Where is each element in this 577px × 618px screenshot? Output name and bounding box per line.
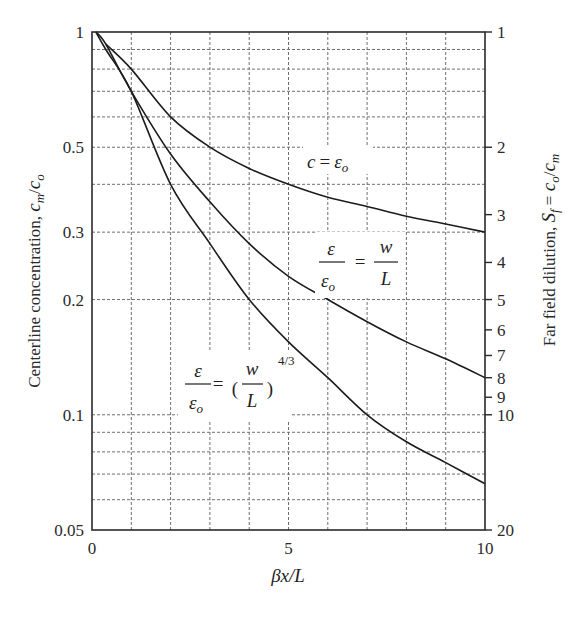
y2-tick-label: 9 bbox=[497, 388, 506, 407]
y2-tick-label: 10 bbox=[497, 406, 514, 425]
y-tick-label: 0.2 bbox=[63, 291, 84, 310]
svg-text:ε: ε bbox=[194, 360, 202, 381]
y-tick-label: 0.05 bbox=[54, 521, 84, 540]
axis-ticks: 051010.50.30.20.10.051234567891020 bbox=[54, 23, 514, 558]
x-tick-label: 5 bbox=[284, 539, 293, 558]
y2-axis-title: Far field dilution, Sf = co/cm bbox=[538, 154, 562, 346]
y2-tick-label: 6 bbox=[497, 321, 506, 340]
svg-text:L: L bbox=[380, 268, 392, 289]
y-tick-label: 0.5 bbox=[63, 138, 84, 157]
series-curve-1 bbox=[106, 44, 485, 232]
annotation-linear-ratio: ε εo = w L bbox=[315, 232, 405, 298]
grid-lines bbox=[92, 32, 485, 530]
data-curves bbox=[96, 32, 485, 484]
y2-tick-label: 20 bbox=[497, 521, 514, 540]
svg-text:w: w bbox=[246, 358, 259, 379]
y2-tick-label: 4 bbox=[497, 253, 506, 272]
y2-tick-label: 2 bbox=[497, 138, 506, 157]
svg-text:(: ( bbox=[232, 378, 238, 400]
series-curve-3 bbox=[96, 32, 485, 484]
y2-tick-label: 7 bbox=[497, 346, 506, 365]
svg-text:ε: ε bbox=[327, 238, 335, 259]
plot-frame bbox=[92, 32, 485, 530]
x-axis-title: βx/L bbox=[270, 565, 305, 586]
y-tick-label: 0.3 bbox=[63, 223, 84, 242]
svg-text:L: L bbox=[246, 390, 258, 411]
y2-tick-label: 5 bbox=[497, 291, 506, 310]
y-axis-title: Centerline concentration, cm/co bbox=[23, 174, 47, 388]
svg-text:=: = bbox=[213, 373, 224, 394]
x-tick-label: 10 bbox=[477, 539, 494, 558]
chart: 051010.50.30.20.10.051234567891020 βx/L … bbox=[0, 0, 577, 618]
x-tick-label: 0 bbox=[88, 539, 97, 558]
y-tick-label: 0.1 bbox=[63, 406, 84, 425]
svg-text:): ) bbox=[267, 378, 273, 400]
y-tick-label: 1 bbox=[76, 23, 85, 42]
svg-text:w: w bbox=[380, 236, 393, 257]
annotation-four-thirds-ratio: ε εo = ( w L ) 4/3 bbox=[178, 350, 295, 422]
series-curve-2 bbox=[96, 32, 485, 378]
svg-text:=: = bbox=[355, 251, 366, 272]
y2-tick-label: 3 bbox=[497, 206, 506, 225]
svg-text:4/3: 4/3 bbox=[278, 353, 295, 368]
y2-tick-label: 8 bbox=[497, 369, 506, 388]
annotation-c-equals-eps0: c=εo bbox=[303, 146, 373, 175]
y2-tick-label: 1 bbox=[497, 23, 506, 42]
